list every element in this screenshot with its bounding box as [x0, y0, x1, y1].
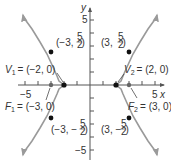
right-branch-upper-arrow	[156, 15, 157, 18]
label-point-neg3-pos52: (−3, 5 2 )	[56, 31, 85, 50]
left-branch-upper-arrow	[23, 15, 24, 18]
svg-text:): )	[126, 124, 129, 135]
label-point-3-pos52: (3, 5 2 )	[101, 31, 126, 50]
y-tick-label-neg5: −5	[75, 145, 87, 156]
vertex-v1-point	[61, 82, 66, 87]
right-branch-lower-arrow	[156, 152, 157, 155]
y-axis-label: y	[80, 2, 87, 13]
x-axis	[18, 81, 164, 85]
v1-label: V1= (−2, 0)	[5, 64, 55, 76]
f2-label: F2= (3, 0)	[128, 101, 171, 113]
f1-leader-line	[46, 88, 50, 100]
point-3-pos52	[127, 50, 132, 55]
focus-f1-point	[49, 83, 53, 87]
label-point-3-neg52: (3, − 5 2 )	[101, 118, 129, 137]
x-axis-label: x	[159, 89, 166, 100]
f1-label: F1= (−3, 0)	[5, 101, 55, 113]
focus-f2-point	[127, 83, 131, 87]
y-tick-label-5: 5	[82, 14, 88, 25]
left-branch-lower-arrow	[23, 152, 24, 155]
point-neg3-pos52	[49, 50, 54, 55]
label-point-neg3-neg52: (−3, − 5 2 )	[51, 118, 88, 137]
svg-text:(3, −: (3, −	[101, 124, 121, 135]
v2-label: V2= (2, 0)	[124, 64, 169, 76]
svg-text:(3,: (3,	[101, 37, 113, 48]
f2-leader-line	[131, 88, 137, 98]
vertex-v2-point	[113, 82, 118, 87]
y-axis	[90, 8, 94, 160]
svg-text:(−3,: (−3,	[56, 37, 74, 48]
svg-text:): )	[85, 124, 88, 135]
x-tick-label-5: 5	[152, 89, 158, 100]
point-neg3-neg52	[49, 116, 54, 121]
x-tick-label-neg5: −5	[20, 89, 32, 100]
point-3-neg52	[127, 116, 132, 121]
svg-text:(−3, −: (−3, −	[51, 124, 77, 135]
svg-text:): )	[123, 37, 126, 48]
svg-text:): )	[82, 37, 85, 48]
hyperbola-diagram: y x 5 −5 −5 5 V1= (−2, 0) V2= (2, 0) F1=…	[0, 0, 171, 163]
